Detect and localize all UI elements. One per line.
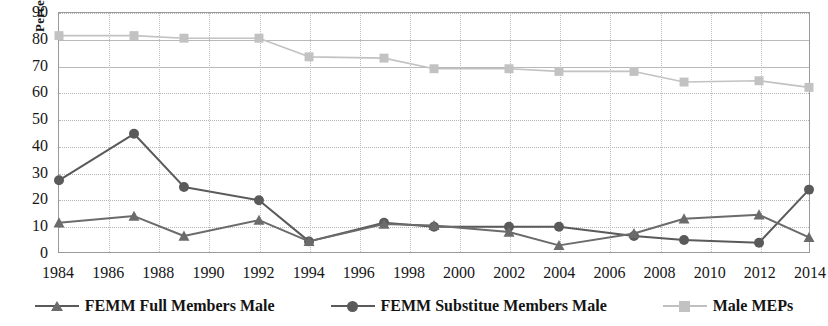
data-point-circle — [554, 222, 564, 232]
data-point-square — [179, 34, 188, 43]
data-point-square — [305, 52, 314, 61]
data-point-circle — [179, 182, 189, 192]
plot-area — [58, 12, 810, 253]
data-point-triangle — [253, 215, 264, 225]
legend-sample — [35, 299, 79, 313]
y-axis-tick-label: 90 — [0, 4, 48, 20]
y-axis-tick-label: 80 — [0, 31, 48, 47]
y-axis-tick-label: 70 — [0, 58, 48, 74]
series-layer — [59, 13, 809, 252]
data-point-square — [629, 67, 638, 76]
triangle-marker-icon — [51, 301, 63, 311]
series-square — [55, 31, 814, 92]
legend-item[interactable]: FEMM Substitue Members Male — [331, 298, 607, 314]
y-axis-tick-label: 20 — [0, 191, 48, 207]
legend-label: Male MEPs — [713, 298, 793, 314]
y-axis-tick-label: 10 — [0, 218, 48, 234]
circle-marker-icon — [347, 301, 358, 312]
data-point-square — [554, 67, 563, 76]
data-point-square — [254, 34, 263, 43]
data-point-square — [55, 31, 64, 40]
legend-item[interactable]: Male MEPs — [663, 298, 793, 314]
legend-sample — [331, 299, 375, 313]
chart-legend: FEMM Full Members MaleFEMM Substitue Mem… — [0, 292, 828, 320]
data-point-square — [680, 78, 689, 87]
legend-label: FEMM Full Members Male — [85, 298, 275, 314]
legend-item[interactable]: FEMM Full Members Male — [35, 298, 275, 314]
data-point-circle — [254, 195, 264, 205]
y-axis-tick-label: 60 — [0, 84, 48, 100]
legend-sample — [663, 299, 707, 313]
line-chart: Percent 9080706050403020100 198419861988… — [0, 0, 828, 326]
data-point-triangle — [804, 232, 815, 242]
x-axis-tick-label: 2014 — [780, 265, 828, 281]
data-point-circle — [754, 238, 764, 248]
legend-label: FEMM Substitue Members Male — [381, 298, 607, 314]
data-point-circle — [679, 235, 689, 245]
square-marker-icon — [679, 301, 690, 312]
y-axis-tick-label: 40 — [0, 138, 48, 154]
series-triangle — [54, 209, 815, 250]
data-point-circle — [804, 185, 814, 195]
data-point-circle — [54, 175, 64, 185]
series-line — [59, 36, 809, 88]
y-axis-tick-label: 30 — [0, 165, 48, 181]
data-point-square — [505, 64, 514, 73]
data-point-square — [380, 54, 389, 63]
y-axis-tick-label: 0 — [0, 245, 48, 261]
data-point-circle — [129, 129, 139, 139]
data-point-square — [755, 76, 764, 85]
data-point-square — [805, 83, 814, 92]
y-axis-tick-label: 50 — [0, 111, 48, 127]
data-point-square — [130, 31, 139, 40]
data-point-square — [430, 64, 439, 73]
